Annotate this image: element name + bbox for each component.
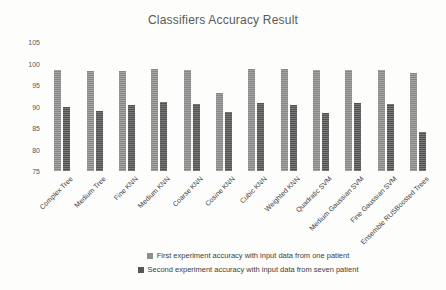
y-tick-label: 85	[32, 125, 40, 132]
legend-label-series2: Second experiment accuracy with input da…	[148, 265, 359, 274]
y-tick-label: 100	[28, 60, 40, 67]
plot-area: 1051009590858075 Complex TreeMedium Tree…	[46, 42, 434, 171]
legend-swatch-series2	[138, 267, 144, 273]
y-tick-label: 90	[32, 103, 40, 110]
y-tick-label: 75	[32, 168, 40, 175]
y-tick-label: 95	[32, 82, 40, 89]
legend-item-series1: First experiment accuracy with input dat…	[147, 251, 350, 260]
legend: First experiment accuracy with input dat…	[50, 251, 446, 274]
legend-item-series2: Second experiment accuracy with input da…	[138, 265, 359, 274]
legend-label-series1: First experiment accuracy with input dat…	[157, 251, 350, 260]
chart-figure: Classifiers Accuracy Result 105100959085…	[0, 0, 446, 290]
x-axis-labels: Complex TreeMedium TreeFine KNNMedium KN…	[46, 42, 434, 171]
chart-title: Classifiers Accuracy Result	[0, 13, 446, 27]
y-tick-label: 105	[28, 39, 40, 46]
legend-swatch-series1	[147, 253, 153, 259]
y-tick-label: 80	[32, 146, 40, 153]
